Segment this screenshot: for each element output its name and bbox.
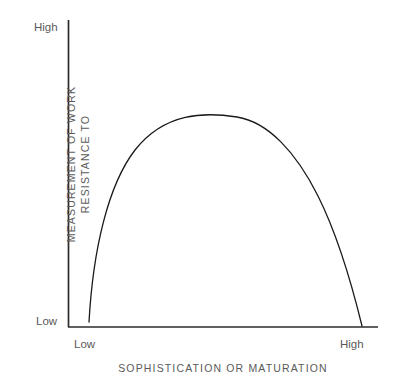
resistance-curve	[89, 115, 362, 326]
chart-figure: High Low Low High RESISTANCE TO MEASUREM…	[0, 0, 402, 388]
x-axis-title: SOPHISTICATION OR MATURATION	[68, 362, 378, 374]
y-axis-title-line-2: MEASUREMENT OF WORK	[64, 85, 78, 241]
x-axis-tick-high: High	[340, 339, 364, 351]
x-axis-tick-low: Low	[74, 339, 95, 351]
plot-area	[0, 0, 402, 388]
y-axis-title: RESISTANCE TO MEASUREMENT OF WORK	[0, 0, 52, 327]
y-axis-title-line-1: RESISTANCE TO	[78, 114, 92, 212]
